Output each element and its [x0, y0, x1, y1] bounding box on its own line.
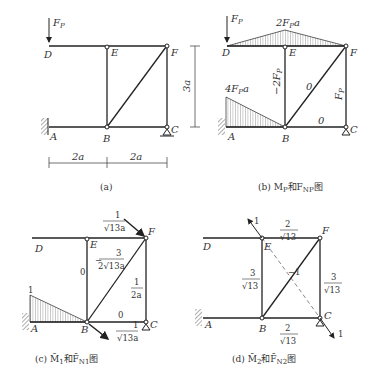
svg-text:(b) MP和FNP图: (b) MP和FNP图	[258, 182, 323, 194]
svg-text:B: B	[258, 323, 266, 334]
svg-text:C: C	[324, 310, 332, 321]
svg-text:2a: 2a	[71, 151, 84, 162]
svg-text:1: 1	[254, 216, 259, 226]
svg-text:A: A	[227, 131, 235, 142]
svg-text:A: A	[204, 319, 212, 330]
svg-text:2a: 2a	[131, 290, 141, 300]
svg-text:4FPa: 4FPa	[224, 83, 249, 96]
svg-text:A: A	[30, 323, 38, 334]
svg-text:2: 2	[285, 323, 290, 333]
svg-text:1: 1	[338, 329, 343, 339]
svg-text:F: F	[147, 226, 156, 237]
svg-text:E: E	[89, 239, 98, 250]
svg-text:B: B	[102, 133, 110, 144]
svg-text:FP: FP	[52, 17, 65, 30]
svg-text:F: F	[349, 47, 358, 58]
panel-a: FP DEF ABC 2a2a (a)	[41, 17, 179, 192]
svg-text:1: 1	[134, 277, 139, 287]
svg-text:3: 3	[331, 272, 336, 282]
svg-text:(a): (a)	[100, 182, 112, 192]
svg-text:√13: √13	[280, 336, 296, 346]
svg-text:(d) M̄2和F̄N2图: (d) M̄2和F̄N2图	[232, 353, 296, 366]
panel-d: 11 2√13 3√13 3√13 2√13 −1 DEF ABC (d) M̄…	[195, 216, 343, 366]
svg-text:F: F	[170, 47, 179, 58]
svg-text:√13: √13	[324, 285, 340, 295]
svg-text:2√13a: 2√13a	[98, 261, 125, 271]
svg-text:0: 0	[306, 81, 313, 92]
svg-text:C: C	[350, 124, 358, 135]
svg-text:2: 2	[285, 219, 290, 229]
svg-text:3: 3	[250, 268, 255, 278]
svg-text:B: B	[80, 324, 88, 335]
panel-c: 1√13a 1√13a −32√13a 12a 001 DEF ABC (c) …	[22, 210, 158, 366]
svg-text:√13a: √13a	[104, 223, 125, 233]
svg-text:0: 0	[80, 267, 85, 277]
svg-text:3a: 3a	[181, 80, 192, 92]
truss-diagrams: FP DEF ABC 2a2a (a) 3a FP 2FPa 4FPa −2FP…	[0, 0, 376, 390]
svg-text:2a: 2a	[129, 151, 142, 162]
svg-text:A: A	[49, 131, 57, 142]
svg-text:F: F	[321, 225, 330, 236]
svg-text:√13: √13	[242, 281, 258, 291]
svg-text:FP: FP	[333, 88, 346, 101]
svg-text:B: B	[281, 133, 289, 144]
svg-text:E: E	[288, 47, 297, 58]
svg-text:−2FP: −2FP	[271, 68, 284, 95]
svg-text:−1: −1	[288, 267, 301, 277]
svg-text:C: C	[171, 124, 179, 135]
svg-text:E: E	[110, 47, 119, 58]
height-dim: 3a	[181, 46, 200, 127]
svg-text:√13a: √13a	[117, 333, 138, 343]
svg-text:D: D	[202, 241, 211, 252]
svg-text:√13: √13	[280, 232, 296, 242]
svg-text:1: 1	[115, 210, 120, 220]
svg-text:D: D	[34, 243, 43, 254]
svg-text:E: E	[263, 241, 272, 252]
svg-text:C: C	[150, 319, 158, 330]
svg-text:0: 0	[318, 115, 325, 126]
svg-text:1: 1	[28, 285, 33, 295]
svg-text:0: 0	[118, 310, 123, 320]
panel-b: FP 2FPa 4FPa −2FP 00 FP DEF ABC (b) MP和F…	[218, 13, 358, 194]
svg-text:1: 1	[133, 320, 138, 330]
svg-text:D: D	[43, 49, 52, 60]
svg-text:2FPa: 2FPa	[275, 17, 300, 30]
svg-text:FP: FP	[230, 13, 243, 26]
svg-text:(c) M̄1和F̄N1图: (c) M̄1和F̄N1图	[35, 353, 98, 366]
svg-text:3: 3	[116, 248, 121, 258]
svg-text:D: D	[221, 47, 230, 58]
